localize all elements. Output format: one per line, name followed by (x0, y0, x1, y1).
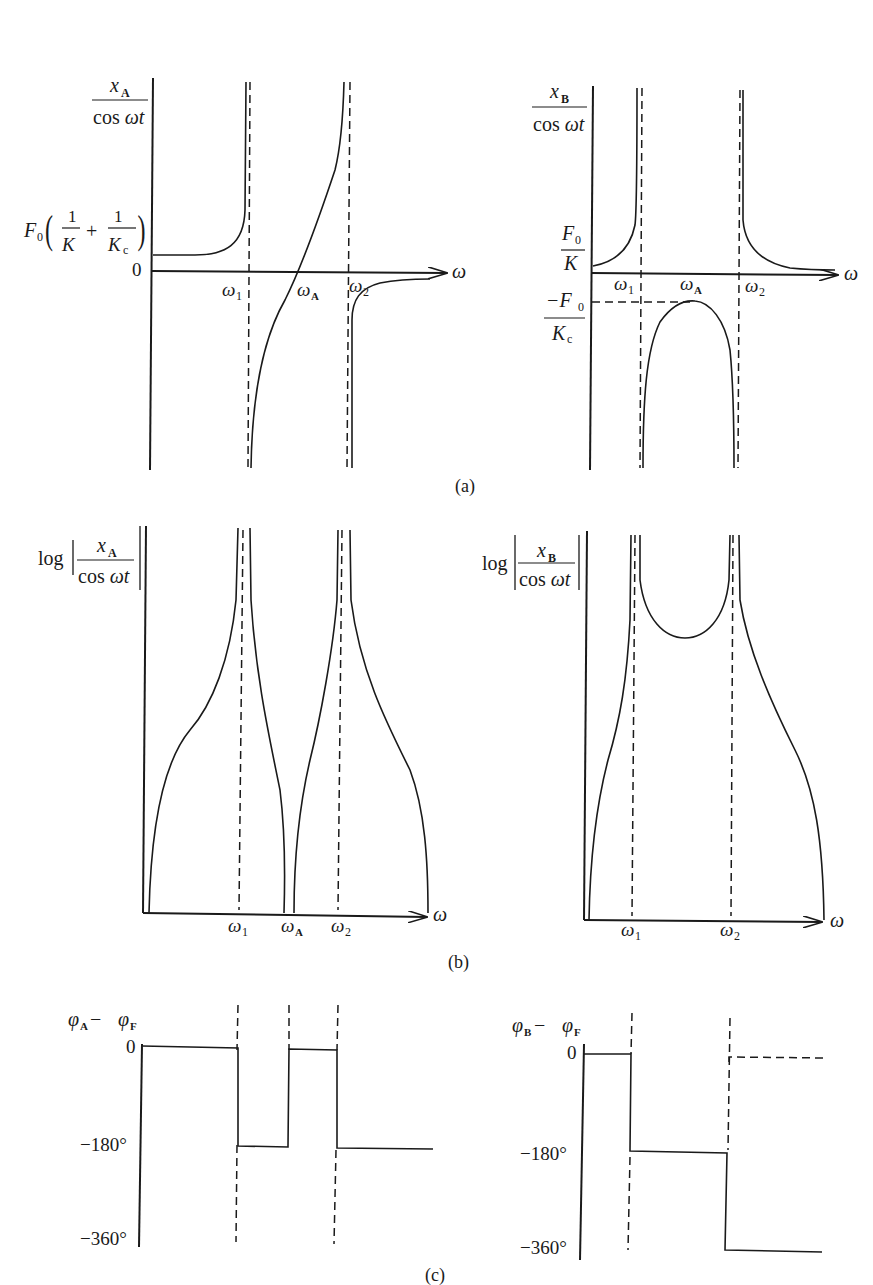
x-tick-omega1: ω 1 (222, 279, 242, 303)
svg-text:ω: ω (281, 915, 294, 936)
svg-text:ω: ω (614, 273, 627, 294)
asymptote-omega2 (738, 90, 740, 468)
x-tick-omega1: ω 1 (614, 273, 634, 297)
curve-phase-B (584, 1054, 822, 1252)
svg-text:F: F (23, 219, 37, 241)
svg-text:−: − (534, 1014, 545, 1036)
svg-text:x: x (96, 534, 106, 556)
svg-text:φ: φ (118, 1008, 129, 1031)
y-axis-label-phiB-phiF: φ B − φ F (512, 1014, 581, 1038)
x-axis (152, 271, 447, 273)
x-tick-omegaA: ω A (680, 273, 702, 296)
svg-text:φ: φ (512, 1014, 523, 1037)
asymptote-omega2 (731, 535, 733, 916)
svg-text:−F: −F (546, 289, 572, 311)
svg-text:F: F (130, 1020, 137, 1032)
svg-text:−: − (90, 1008, 101, 1030)
svg-text:A: A (311, 290, 319, 302)
x-tick-omega1: ω 1 (228, 915, 248, 939)
svg-text:0: 0 (575, 233, 581, 247)
svg-text:0: 0 (37, 230, 43, 244)
curve-phase-A (142, 1046, 433, 1149)
x-tick-omegaA: ω A (281, 915, 303, 938)
svg-text:x: x (549, 80, 559, 102)
plot-c-left-phase-A: φ A − φ F 0 −180° −360° (68, 1005, 433, 1249)
y-axis-label-xB: x B cos ωt (532, 80, 587, 135)
svg-text:cos ωt: cos ωt (519, 568, 571, 590)
svg-text:(: ( (45, 208, 53, 253)
asymptote-omega1-lower (236, 1145, 237, 1242)
svg-text:cos ωt: cos ωt (93, 106, 145, 128)
svg-text:ω: ω (680, 273, 693, 294)
y-axis (150, 78, 153, 470)
svg-text:): ) (137, 208, 145, 253)
curve-log-xA (149, 528, 428, 913)
panel-label-b: (b) (448, 952, 469, 973)
svg-text:ω: ω (331, 915, 344, 936)
svg-text:c: c (567, 332, 572, 346)
svg-text:A: A (80, 1020, 88, 1032)
y-tick-minus-360: −360° (520, 1237, 567, 1258)
svg-text:B: B (561, 92, 569, 106)
x-axis-label-omega: ω (452, 260, 466, 282)
asymptote-omega2 (728, 1018, 730, 1150)
asymptote-omega1-upper (631, 1013, 632, 1054)
y-tick-minus-180: −180° (520, 1143, 567, 1164)
x-tick-omegaA: ω A (297, 279, 319, 302)
svg-text:ω: ω (720, 919, 733, 940)
svg-text:A: A (694, 284, 702, 296)
svg-text:K: K (107, 234, 122, 255)
vibration-response-figure: x A cos ωt F 0 ( 1 K + 1 K c ) 0 ω (0, 0, 873, 1285)
asymptote-omega1 (248, 82, 250, 468)
svg-text:K: K (61, 234, 76, 255)
plot-b-left-log-xA: log x A cos ωt ω ω 1 ω A ω 2 (38, 526, 447, 939)
svg-text:1: 1 (68, 207, 77, 226)
y-tick-F0-over-K: F 0 K (561, 222, 585, 274)
asymptote-omega2-upper (337, 1005, 338, 1050)
svg-text:1: 1 (236, 289, 242, 303)
y-axis-label-xA: x A cos ωt (92, 74, 148, 128)
asymptote-omega2-lower (334, 1150, 336, 1244)
svg-text:ω: ω (349, 275, 362, 296)
svg-text:ω: ω (228, 915, 241, 936)
svg-text:ω: ω (222, 279, 235, 300)
svg-text:B: B (524, 1026, 532, 1038)
svg-text:cos ωt: cos ωt (533, 113, 585, 135)
svg-text:A: A (121, 86, 130, 100)
svg-text:A: A (295, 926, 303, 938)
svg-text:0: 0 (578, 300, 584, 314)
curve-xB-segment-2 (643, 301, 734, 468)
y-tick-zero: 0 (132, 259, 142, 280)
svg-text:2: 2 (363, 285, 369, 299)
y-axis-label-phiA-phiF: φ A − φ F (68, 1008, 137, 1032)
asymptote-omega1 (640, 88, 642, 468)
svg-text:ω: ω (621, 919, 634, 940)
y-axis (584, 531, 587, 920)
panel-label-c: (c) (425, 1265, 445, 1285)
plot-c-right-phase-B: φ B − φ F 0 −180° −360° (512, 1013, 826, 1260)
plot-b-right-log-xB: log x B cos ωt ω ω 1 ω 2 (482, 531, 844, 943)
x-tick-omega1: ω 1 (621, 919, 641, 943)
asymptote-omega1-upper (237, 1005, 238, 1050)
x-axis-label-omega: ω (433, 903, 447, 925)
y-axis-label-log-xB: log x B cos ωt (482, 535, 579, 590)
svg-text:log: log (482, 552, 508, 575)
y-tick-neg-F0-over-Kc: −F 0 K c (544, 289, 585, 346)
x-tick-omega2: ω 2 (720, 919, 740, 943)
y-axis (580, 1044, 584, 1260)
svg-text:1: 1 (628, 283, 634, 297)
svg-text:φ: φ (562, 1014, 573, 1037)
svg-text:K: K (551, 322, 567, 344)
svg-text:2: 2 (759, 285, 765, 299)
x-tick-omega2: ω 2 (331, 915, 351, 939)
y-axis (143, 526, 146, 913)
x-tick-omega2: ω 2 (745, 275, 765, 299)
y-tick-minus-180: −180° (80, 1134, 127, 1155)
y-tick-zero: 0 (126, 1036, 136, 1057)
svg-text:c: c (123, 243, 128, 257)
y-axis (590, 86, 593, 470)
y-axis-label-log-xA: log x A cos ωt (38, 526, 140, 590)
svg-text:K: K (563, 252, 579, 274)
svg-text:1: 1 (242, 925, 248, 939)
plot-a-right-xB: x B cos ωt F 0 K −F 0 K c ω (532, 80, 858, 470)
